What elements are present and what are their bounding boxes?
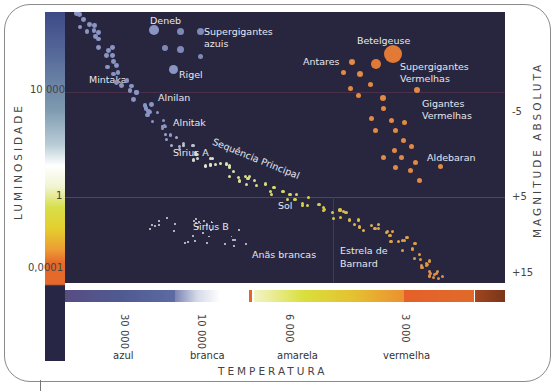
star-dot [177,46,184,53]
star-dot [377,223,380,226]
star-dot [134,90,139,95]
star-dot [238,229,240,231]
lum-tick-10000: 10 000 [30,84,65,95]
label-white-dwarfs: Anãs brancas [252,249,316,260]
star-dot [414,87,420,93]
star-dot [368,82,373,87]
star-dot [441,275,444,278]
star-dot [203,220,205,222]
star-dot [149,102,154,107]
star-dot [377,227,380,230]
star-dot [154,225,156,227]
star-dot [233,245,235,247]
star-dot [206,242,208,244]
star-dot [161,127,164,130]
label-red-supergiants-1: Supergigantes [400,61,469,72]
lum-tick-00001: 0,0001 [28,262,63,273]
star-dot [210,229,212,231]
label-barnard-2: Barnard [340,258,378,269]
star-dot [128,88,133,93]
star-dot [272,186,275,189]
star-dot [348,86,353,91]
star-dot [204,164,207,167]
star-dot [156,111,159,114]
star-dot [344,211,347,214]
star-dot [192,158,195,161]
star-dot [281,190,284,193]
star-dot [428,259,431,262]
star-dot [380,95,386,101]
star-dot [301,204,304,207]
star-dot [166,217,168,219]
star-dot [224,243,226,245]
star-dot [357,71,363,77]
label-rigel: Rigel [179,69,203,80]
star-dot [198,54,203,59]
color-label-branca: branca [190,350,225,361]
star-dot [234,239,236,241]
star-dot [87,22,92,27]
star-dot [238,179,241,182]
star-dot [81,17,86,22]
corner-tick [40,380,41,391]
star-dot [418,253,421,256]
star-dot [420,266,423,269]
star-dot [307,196,310,199]
star-dot [317,203,320,206]
color-label-amarela: amarela [277,350,318,361]
star-dot [409,144,414,149]
star-dot [248,175,251,178]
star-dot [371,59,381,69]
star-dot [165,138,168,141]
magnitude-axis-title: MAGNITUDE ABSOLUTA [531,62,543,238]
star-dot [196,157,199,160]
star-dot [194,240,196,242]
temp-bar-yellow [254,290,404,302]
temp-bar-marker [249,290,252,302]
star-dot [413,160,418,165]
star-dot [411,248,414,251]
star-dot [295,193,298,196]
hr-plot-area: Deneb Supergigantes azuis Rigel Mintaka … [65,12,505,283]
star-dot [405,236,408,239]
star-dot [93,34,98,39]
star-dot [393,165,398,170]
label-alnilan: Alnilan [158,92,190,103]
star-dot [197,28,204,35]
star-dot [111,72,116,77]
temp-bar-white [175,290,220,302]
star-dot [232,170,235,173]
star-dot [428,274,431,277]
star-dot [158,224,160,226]
star-dot [162,119,165,122]
star-dot [341,70,346,75]
color-label-azul: azul [113,350,134,361]
star-dot [408,168,413,173]
label-aldebaran: Aldebaran [427,152,476,163]
mag-tick-plus15: +15 [512,267,533,278]
mag-tick-plus5: +5 [512,191,527,202]
star-dot [184,242,186,244]
label-barnard-1: Estrela de [340,245,388,256]
temp-bar-darkred [475,290,505,302]
star-dot [164,133,167,136]
star-dot [438,164,443,169]
star-dot [338,208,341,211]
star-dot [392,148,397,153]
gridline-sol-vertical [333,197,334,283]
star-dot [169,133,172,136]
star-dot [388,234,391,237]
star-dot [192,235,194,237]
temp-tick-30000: 30 000 [119,314,130,349]
star-dot [187,241,189,243]
lum-tick-1: 1 [56,190,62,201]
star-dot [369,116,374,121]
star-dot [386,230,389,233]
star-dot [125,78,130,83]
star-dot [131,97,136,102]
star-dot [214,163,217,166]
star-dot [437,277,440,280]
star-dot [151,224,153,226]
star-dot [104,53,109,58]
star-dot [231,236,233,238]
